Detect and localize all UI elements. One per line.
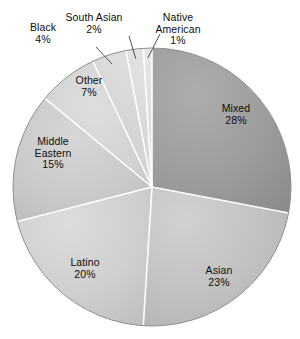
slice-label-south-asian-value: 2%	[49, 24, 139, 36]
slice-label-middle-eastern: Middle Eastern 15%	[8, 136, 98, 171]
slice-label-south-asian: South Asian 2%	[49, 12, 139, 35]
slice-label-black-value: 4%	[0, 34, 88, 46]
slice-label-mixed-name: Mixed	[191, 103, 281, 115]
slice-label-asian-name: Asian	[174, 265, 264, 277]
slice-label-latino-value: 20%	[40, 269, 130, 281]
slice-label-mixed: Mixed 28%	[191, 103, 281, 126]
pie-slice-mixed[interactable]	[152, 48, 291, 213]
slice-label-other: Other 7%	[44, 75, 134, 98]
slice-label-latino-name: Latino	[40, 257, 130, 269]
slice-label-native-american: Native American 1%	[133, 12, 223, 47]
slice-label-other-name: Other	[44, 75, 134, 87]
slice-label-native-american-line1: Native	[133, 12, 223, 24]
slice-label-native-american-value: 1%	[133, 35, 223, 47]
slice-label-middle-eastern-line1: Middle	[8, 136, 98, 148]
slice-label-asian-value: 23%	[174, 277, 264, 289]
slice-label-middle-eastern-value: 15%	[8, 159, 98, 171]
pie-chart: Mixed 28% Asian 23% Latino 20% Middle Ea…	[0, 0, 300, 339]
slice-label-asian: Asian 23%	[174, 265, 264, 288]
slice-label-south-asian-name: South Asian	[49, 12, 139, 24]
slice-label-other-value: 7%	[44, 87, 134, 99]
slice-label-latino: Latino 20%	[40, 257, 130, 280]
slice-label-mixed-value: 28%	[191, 115, 281, 127]
